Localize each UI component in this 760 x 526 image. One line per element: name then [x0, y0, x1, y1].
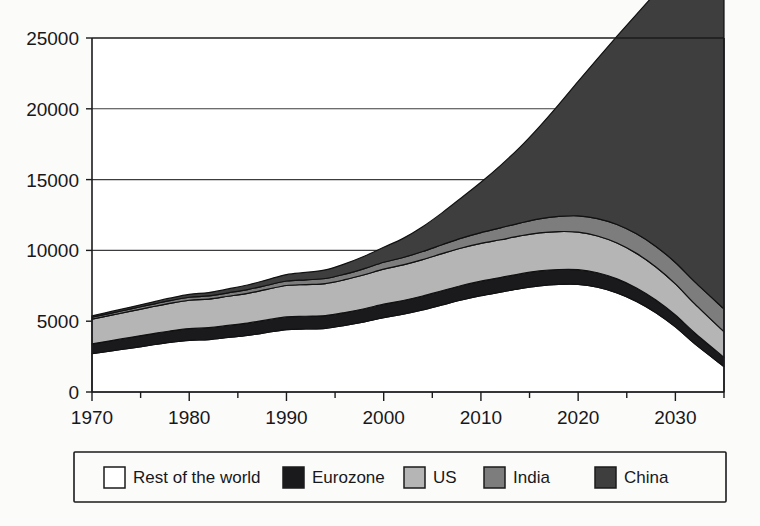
y-tick-label-20000: 20000	[26, 99, 79, 120]
legend-label: Eurozone	[312, 468, 385, 487]
legend-swatch	[484, 467, 505, 488]
x-tick-label-1970: 1970	[71, 407, 113, 428]
legend-item-china[interactable]: China	[595, 467, 669, 488]
y-tick-label-5000: 5000	[37, 311, 79, 332]
stacked-area-chart: 0500010000150002000025000 19701980199020…	[0, 0, 760, 526]
y-tick-label-0: 0	[68, 382, 79, 403]
x-tick-label-1990: 1990	[265, 407, 307, 428]
x-tick-label-1980: 1980	[168, 407, 210, 428]
legend-label: US	[433, 468, 457, 487]
legend-swatch	[283, 467, 304, 488]
x-tick-label-2010: 2010	[460, 407, 502, 428]
x-tick-label-2000: 2000	[363, 407, 405, 428]
legend-item-india[interactable]: India	[484, 467, 550, 488]
chart-legend: Rest of the worldEurozoneUSIndiaChina	[74, 452, 726, 502]
x-tick-label-2020: 2020	[557, 407, 599, 428]
x-tick-label-2030: 2030	[654, 407, 696, 428]
y-tick-label-15000: 15000	[26, 170, 79, 191]
legend-item-eurozone[interactable]: Eurozone	[283, 467, 385, 488]
y-tick-label-25000: 25000	[26, 28, 79, 49]
y-tick-label-10000: 10000	[26, 240, 79, 261]
legend-swatch	[595, 467, 616, 488]
legend-swatch	[104, 467, 125, 488]
legend-swatch	[404, 467, 425, 488]
legend-label: India	[513, 468, 550, 487]
legend-label: Rest of the world	[133, 468, 261, 487]
legend-label: China	[624, 468, 669, 487]
chart-figure: 0500010000150002000025000 19701980199020…	[0, 0, 760, 526]
